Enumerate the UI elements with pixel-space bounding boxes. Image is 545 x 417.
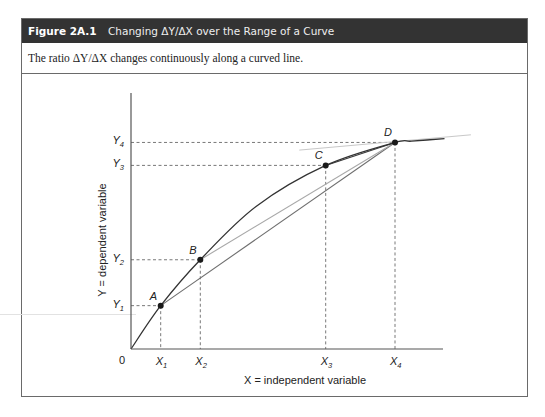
x-tick-label-3: X3 <box>320 355 333 370</box>
point-label-C: C <box>315 149 323 161</box>
y-tick-label-2: Y2 <box>112 252 124 267</box>
origin-label: 0 <box>119 354 125 366</box>
point-label-D: D <box>384 126 392 138</box>
dashed-guides <box>131 142 395 349</box>
x-axis-title: X = independent variable <box>244 374 366 386</box>
point-C <box>323 162 329 168</box>
y-tick-label-3: Y3 <box>112 157 124 172</box>
axes <box>131 93 443 349</box>
curve-line <box>131 139 445 349</box>
point-label-B: B <box>189 244 196 256</box>
point-B <box>197 257 203 263</box>
point-A <box>158 303 164 309</box>
x-tick-label-2: X2 <box>194 355 207 370</box>
x-tick-label-1: X1 <box>155 355 168 370</box>
y-tick-label-4: Y4 <box>112 134 124 149</box>
x-tick-label-4: X4 <box>389 355 402 370</box>
chart: ABCDX1X2X3X4Y1Y2Y3Y40X = independent var… <box>0 0 545 417</box>
chart-lines <box>131 135 471 349</box>
chord-B-D <box>200 142 395 259</box>
point-D <box>392 139 398 145</box>
y-tick-label-1: Y1 <box>112 298 124 313</box>
point-label-A: A <box>149 290 157 302</box>
chord-A-D <box>161 142 395 305</box>
y-axis-title: Y = dependent variable <box>96 183 108 296</box>
